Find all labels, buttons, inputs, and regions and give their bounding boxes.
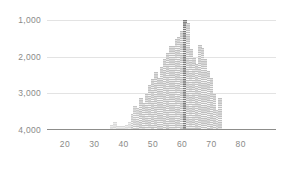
x-tick-label: 20 (60, 139, 70, 149)
y-tick-label: 1,000 (18, 15, 41, 25)
y-tick-label: 4,000 (18, 125, 41, 135)
y-tick-label: 2,000 (18, 52, 41, 62)
x-axis-line (47, 129, 276, 130)
x-tick-label: 40 (118, 139, 128, 149)
y-tick-label: 3,000 (18, 88, 41, 98)
x-axis-labels: 20 30 40 50 60 70 80 (0, 139, 283, 159)
x-tick-label: 30 (89, 139, 99, 149)
rank-distribution-chart: 1,000 2,000 3,000 4,000 20 30 40 50 60 7… (0, 0, 283, 176)
plot-area (47, 20, 276, 130)
x-tick-label: 60 (177, 139, 187, 149)
gridline-1000 (47, 20, 276, 21)
x-tick-label: 50 (148, 139, 158, 149)
gridline-2000 (47, 57, 276, 58)
x-tick-label: 70 (206, 139, 216, 149)
bar[interactable] (218, 98, 222, 130)
x-tick-label: 80 (236, 139, 246, 149)
